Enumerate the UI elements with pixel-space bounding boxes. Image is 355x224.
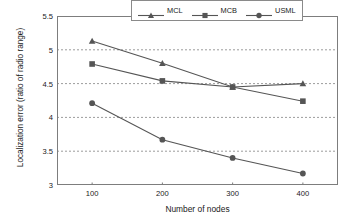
data-point-marker — [300, 171, 306, 177]
x-axis-tick-label: 200 — [156, 189, 169, 198]
series-line — [92, 41, 303, 87]
series-mcb — [89, 61, 305, 104]
plot-area — [57, 16, 338, 185]
series-usml — [89, 100, 306, 176]
legend-label: MCL — [167, 6, 183, 15]
data-point-marker — [160, 78, 166, 84]
legend-circle-icon — [246, 6, 272, 15]
data-point-marker — [230, 84, 236, 90]
y-axis-tick-label: 5.5 — [26, 12, 53, 21]
chart-legend: MCLMCBUSML — [131, 0, 303, 21]
legend-square-icon — [192, 6, 218, 15]
data-point-marker — [300, 98, 306, 104]
y-axis-tick-label: 3.5 — [26, 147, 53, 156]
chart-figure: Localization error (ratio of radio range… — [0, 0, 355, 224]
legend-triangle-icon — [138, 6, 164, 15]
data-point-marker — [89, 38, 96, 44]
legend-entry-mcl[interactable]: MCL — [138, 6, 183, 15]
x-axis-tick-label: 400 — [297, 189, 310, 198]
x-axis-tick-labels: 100200300400 — [57, 189, 338, 201]
plot-frame — [58, 17, 338, 185]
y-axis-tick-labels: 33.544.555.5 — [26, 16, 53, 185]
x-axis-tick-label: 300 — [226, 189, 239, 198]
legend-entry-mcb[interactable]: MCB — [192, 6, 237, 15]
legend-label: USML — [275, 6, 296, 15]
series-line — [92, 103, 303, 173]
series-line — [92, 64, 303, 101]
x-axis-label: Number of nodes — [57, 204, 338, 214]
legend-label: MCB — [221, 6, 237, 15]
y-axis-tick-label: 5 — [26, 45, 53, 54]
legend-entry-usml[interactable]: USML — [246, 6, 296, 15]
y-axis-tick-label: 3 — [26, 181, 53, 190]
data-point-marker — [89, 100, 95, 106]
x-axis-tick-label: 100 — [86, 189, 99, 198]
data-point-marker — [159, 137, 165, 143]
series-mcl — [89, 38, 306, 90]
plot-svg — [57, 16, 338, 185]
data-point-marker — [230, 155, 236, 161]
y-axis-tick-label: 4 — [26, 113, 53, 122]
y-axis-tick-label: 4.5 — [26, 79, 53, 88]
data-point-marker — [89, 61, 95, 67]
